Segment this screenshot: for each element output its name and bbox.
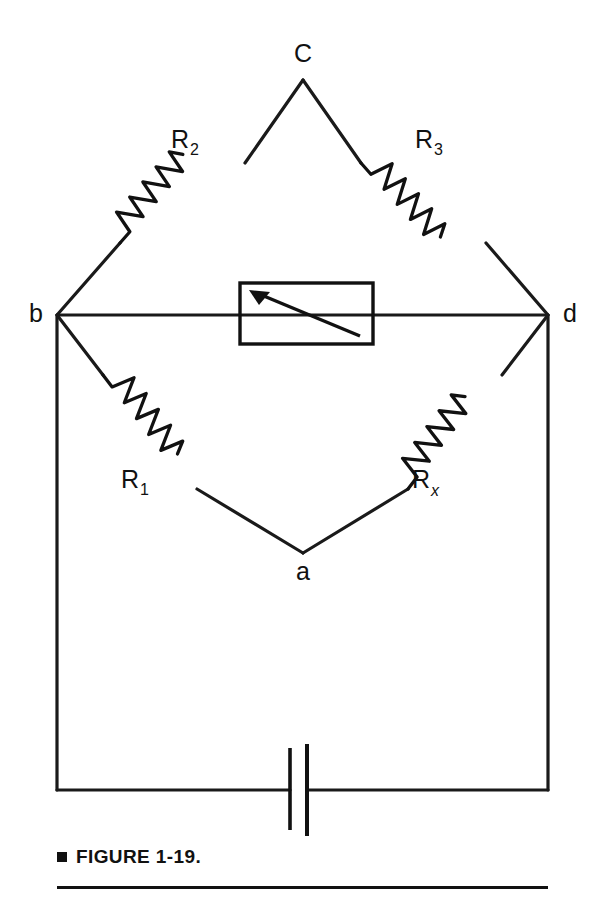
resistor-r2-body <box>103 147 191 243</box>
svg-text:R: R <box>412 465 430 493</box>
battery-symbol <box>290 744 307 836</box>
resistor-label-r3: R 3 <box>415 125 443 158</box>
resistor-r1-body <box>103 361 187 461</box>
node-label-b: b <box>29 299 43 327</box>
figure-container: C b d a R 2 R 3 R 1 R x <box>0 0 599 903</box>
figure-caption-area: FIGURE 1-19. <box>0 846 599 903</box>
bridge-arm-b-c <box>57 80 303 315</box>
resistor-r3-body <box>361 148 449 244</box>
resistor-label-rx: R x <box>412 465 440 499</box>
figure-caption: FIGURE 1-19. <box>57 846 201 868</box>
caption-label: FIGURE 1-19. <box>76 846 201 868</box>
resistor-label-r1: R 1 <box>121 465 149 498</box>
caption-bullet-icon <box>57 852 67 862</box>
lead-c-to-r3 <box>303 80 361 163</box>
lead-r3-to-d <box>486 243 548 315</box>
resistor-label-rx-subscript: x <box>430 482 440 499</box>
resistor-label-r2-subscript: 2 <box>190 141 199 158</box>
resistor-label-r3-subscript: 3 <box>434 141 443 158</box>
resistor-rx-body <box>390 389 474 489</box>
bridge-arm-b-a <box>57 315 303 553</box>
resistor-label-r1-subscript: 1 <box>140 481 149 498</box>
bridge-arm-a-d <box>303 315 548 553</box>
node-label-a: a <box>296 557 310 585</box>
lead-a-to-rx <box>303 489 408 553</box>
svg-text:R: R <box>171 125 189 153</box>
svg-text:R: R <box>121 465 139 493</box>
lead-r2-to-c <box>245 80 303 163</box>
caption-divider <box>57 886 548 889</box>
node-label-d: d <box>563 299 577 327</box>
svg-text:R: R <box>415 125 433 153</box>
circuit-diagram: C b d a R 2 R 3 R 1 R x <box>0 0 599 903</box>
lead-b-to-r1 <box>57 315 103 375</box>
lead-r1-to-a <box>197 489 303 553</box>
lead-b-to-r2 <box>57 243 120 315</box>
bridge-arm-c-d <box>303 80 548 315</box>
lead-rx-to-d <box>502 315 548 375</box>
resistor-labels: R 2 R 3 R 1 R x <box>121 125 443 499</box>
node-label-c: C <box>294 39 312 67</box>
galvanometer <box>240 283 373 344</box>
